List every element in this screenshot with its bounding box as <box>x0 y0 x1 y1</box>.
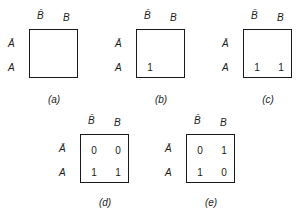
cell-nA-B: 0 <box>112 146 124 156</box>
caption: (d) <box>85 198 125 208</box>
row-label-a: A <box>59 168 66 178</box>
col-label-not-b: B̄ <box>194 116 201 126</box>
karnaugh-map-a: B̄ B Ā A (a) <box>0 5 100 105</box>
cell-A-B: 0 <box>218 168 230 178</box>
cell-A-B: 1 <box>112 168 124 178</box>
karnaugh-map-d: B̄ B Ā A 0 0 1 1 (d) <box>51 110 151 210</box>
karnaugh-map-e: B̄ B Ā A 0 1 1 0 (e) <box>157 110 257 210</box>
col-label-not-b: B̄ <box>144 11 151 21</box>
row-label-a: A <box>8 63 15 73</box>
row-label-not-a: Ā <box>222 39 229 49</box>
row-label-a: A <box>165 168 172 178</box>
cell-A-nB: 1 <box>144 63 156 73</box>
row-label-not-a: Ā <box>115 39 122 49</box>
cell-A-nB: 1 <box>194 168 206 178</box>
caption: (a) <box>34 95 74 105</box>
col-label-not-b: B̄ <box>37 11 44 21</box>
col-label-not-b: B̄ <box>88 116 95 126</box>
karnaugh-map-c: B̄ B Ā A 1 1 (c) <box>214 5 299 105</box>
row-label-a: A <box>115 63 122 73</box>
col-label-b: B <box>170 13 177 23</box>
row-label-not-a: Ā <box>8 39 15 49</box>
col-label-b: B <box>114 118 121 128</box>
karnaugh-map-b: B̄ B Ā A 1 (b) <box>107 5 207 105</box>
col-label-b: B <box>220 118 227 128</box>
map-grid <box>29 29 78 78</box>
cell-nA-nB: 0 <box>194 146 206 156</box>
caption: (e) <box>191 198 231 208</box>
cell-A-nB: 1 <box>88 168 100 178</box>
cell-nA-nB: 0 <box>88 146 100 156</box>
cell-nA-B: 1 <box>218 146 230 156</box>
caption: (c) <box>248 95 288 105</box>
col-label-not-b: B̄ <box>251 11 258 21</box>
row-label-not-a: Ā <box>59 144 66 154</box>
row-label-not-a: Ā <box>165 144 172 154</box>
cell-A-nB: 1 <box>251 63 263 73</box>
caption: (b) <box>141 95 181 105</box>
cell-A-B: 1 <box>275 63 287 73</box>
col-label-b: B <box>277 13 284 23</box>
col-label-b: B <box>63 13 70 23</box>
row-label-a: A <box>222 63 229 73</box>
